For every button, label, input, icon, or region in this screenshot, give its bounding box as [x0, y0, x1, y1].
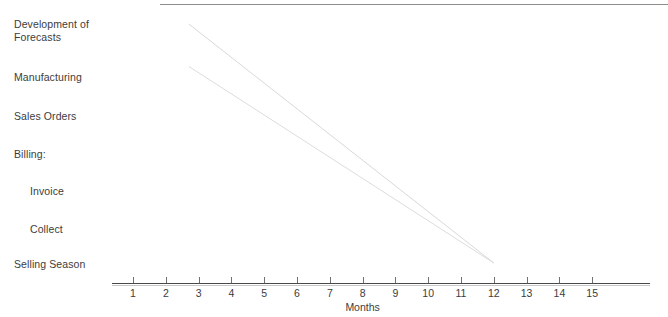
x-axis-tick-label-11: 11: [456, 287, 467, 300]
plot-area: [112, 0, 668, 285]
category-label-development-of-forecasts: Development of Forecasts: [14, 18, 89, 44]
x-axis-tick-15: [592, 277, 593, 283]
x-axis-tick-14: [559, 277, 560, 283]
series-lines: [112, 0, 668, 285]
x-axis-tick-7: [330, 277, 331, 283]
x-axis-line-shadow: [112, 285, 650, 286]
category-label-invoice: Invoice: [30, 185, 64, 198]
x-axis-tick-6: [297, 277, 298, 283]
x-axis-tick-label-10: 10: [422, 287, 434, 300]
x-axis-tick-4: [231, 277, 232, 283]
x-axis-tick-label-2: 2: [163, 287, 169, 300]
x-axis-tick-label-9: 9: [392, 287, 398, 300]
x-axis-tick-5: [264, 277, 265, 283]
x-axis-tick-label-15: 15: [586, 287, 598, 300]
x-axis-tick-marks: [0, 277, 668, 285]
x-axis-tick-label-13: 13: [521, 287, 533, 300]
x-axis-tick-label-4: 4: [228, 287, 234, 300]
category-label-sales-orders: Sales Orders: [14, 110, 76, 123]
x-axis-tick-9: [395, 277, 396, 283]
chart-canvas: Development of Forecasts Manufacturing S…: [0, 0, 668, 317]
category-label-selling-season: Selling Season: [14, 258, 85, 271]
x-axis-tick-labels: 123456789101112131415: [0, 287, 668, 301]
schedule-line-lower: [189, 66, 494, 263]
x-axis-tick-8: [363, 277, 364, 283]
category-label-billing: Billing:: [14, 148, 46, 161]
x-axis-tick-13: [527, 277, 528, 283]
x-axis-tick-1: [133, 277, 134, 283]
x-axis-tick-label-14: 14: [554, 287, 566, 300]
x-axis-tick-label-12: 12: [488, 287, 500, 300]
category-label-collect: Collect: [30, 223, 63, 236]
x-axis-tick-2: [166, 277, 167, 283]
x-axis-tick-label-6: 6: [294, 287, 300, 300]
x-axis-tick-12: [494, 277, 495, 283]
x-axis-tick-10: [428, 277, 429, 283]
category-label-manufacturing: Manufacturing: [14, 71, 82, 84]
x-axis-tick-label-8: 8: [360, 287, 366, 300]
x-axis-tick-label-3: 3: [196, 287, 202, 300]
schedule-line-upper: [189, 24, 494, 263]
x-axis-tick-label-7: 7: [327, 287, 333, 300]
category-axis-labels: Development of Forecasts Manufacturing S…: [0, 0, 130, 290]
x-axis-tick-3: [199, 277, 200, 283]
x-axis-title: Months: [345, 301, 379, 314]
x-axis-tick-11: [461, 277, 462, 283]
x-axis-tick-label-5: 5: [261, 287, 267, 300]
x-axis-tick-label-1: 1: [130, 287, 136, 300]
